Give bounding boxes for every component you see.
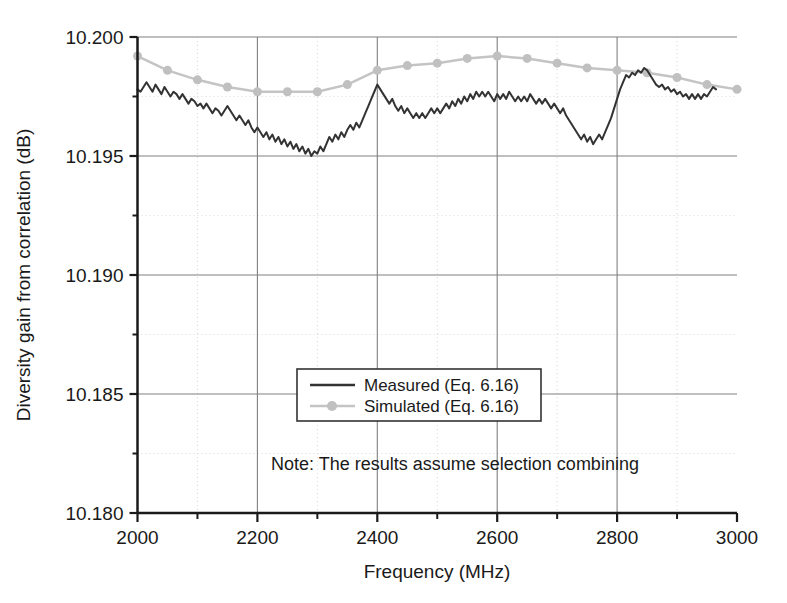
- x-tick-label: 2200: [236, 527, 278, 548]
- chart-legend: Measured (Eq. 6.16) Simulated (Eq. 6.16): [297, 369, 541, 421]
- y-tick-label: 10.180: [65, 503, 123, 524]
- x-tick-label: 3000: [716, 527, 758, 548]
- x-tick-label: 2800: [596, 527, 638, 548]
- legend-marker-simulated: [327, 401, 337, 411]
- chart-figure: 10.18010.18510.19010.19510.200 200022002…: [0, 0, 787, 603]
- chart-annotations: Note: The results assume selection combi…: [271, 454, 639, 474]
- y-tick-label: 10.185: [65, 384, 123, 405]
- x-axis-title: Frequency (MHz): [364, 561, 511, 582]
- y-tick-label: 10.200: [65, 27, 123, 48]
- legend-label-measured: Measured (Eq. 6.16): [364, 376, 519, 395]
- y-tick-label: 10.190: [65, 265, 123, 286]
- diversity-gain-chart: 10.18010.18510.19010.19510.200 200022002…: [0, 0, 787, 603]
- y-axis-title: Diversity gain from correlation (dB): [13, 129, 34, 421]
- legend-label-simulated: Simulated (Eq. 6.16): [364, 397, 519, 416]
- x-tick-label: 2400: [356, 527, 398, 548]
- y-tick-label: 10.195: [65, 146, 123, 167]
- selection-combining-note: Note: The results assume selection combi…: [271, 454, 639, 474]
- x-tick-label: 2000: [116, 527, 158, 548]
- x-tick-label: 2600: [476, 527, 518, 548]
